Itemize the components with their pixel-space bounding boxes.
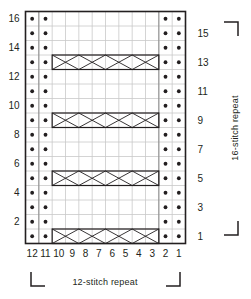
purl-dot bbox=[177, 75, 181, 79]
purl-dot bbox=[30, 205, 34, 209]
purl-dot bbox=[44, 46, 48, 50]
bottom-repeat-label: 12-stitch repeat bbox=[72, 277, 138, 287]
row-label-left: 16 bbox=[8, 13, 20, 24]
purl-dot bbox=[44, 60, 48, 64]
row-label-left: 10 bbox=[8, 100, 20, 111]
purl-dot bbox=[30, 191, 34, 195]
purl-dot bbox=[164, 60, 168, 64]
purl-dot bbox=[30, 46, 34, 50]
purl-dot bbox=[44, 234, 48, 238]
purl-dot bbox=[30, 176, 34, 180]
purl-dot bbox=[44, 31, 48, 35]
purl-dot bbox=[44, 162, 48, 166]
purl-dot bbox=[164, 89, 168, 93]
row-label-left: 6 bbox=[14, 158, 20, 169]
purl-dot bbox=[44, 133, 48, 137]
column-label: 1 bbox=[176, 248, 182, 259]
purl-dot bbox=[177, 147, 181, 151]
row-labels-left: 161412108642 bbox=[8, 13, 20, 227]
purl-dot bbox=[177, 104, 181, 108]
purl-dot bbox=[177, 133, 181, 137]
purl-dot bbox=[44, 205, 48, 209]
purl-dot bbox=[164, 118, 168, 122]
purl-dot bbox=[44, 118, 48, 122]
row-label-left: 12 bbox=[8, 71, 20, 82]
purl-dot bbox=[44, 104, 48, 108]
purl-dot bbox=[30, 118, 34, 122]
column-label: 7 bbox=[96, 248, 102, 259]
purl-dot bbox=[177, 205, 181, 209]
purl-dot bbox=[177, 176, 181, 180]
purl-dot bbox=[44, 147, 48, 151]
column-label: 9 bbox=[69, 248, 75, 259]
purl-dot bbox=[177, 234, 181, 238]
row-label-left: 4 bbox=[14, 187, 20, 198]
purl-dot bbox=[164, 176, 168, 180]
side-repeat-label: 16-stitch repeat bbox=[230, 95, 240, 161]
purl-dot bbox=[164, 104, 168, 108]
purl-dot bbox=[164, 31, 168, 35]
purl-dot bbox=[30, 31, 34, 35]
column-label: 10 bbox=[53, 248, 65, 259]
row-label-left: 2 bbox=[14, 216, 20, 227]
purl-dot bbox=[177, 220, 181, 224]
row-labels-right: 15131197531 bbox=[198, 28, 210, 242]
row-label-right: 11 bbox=[198, 86, 209, 97]
purl-dot bbox=[44, 75, 48, 79]
purl-dot bbox=[164, 234, 168, 238]
column-labels: 121110987654321 bbox=[27, 248, 182, 259]
purl-dot bbox=[164, 75, 168, 79]
purl-dot bbox=[177, 31, 181, 35]
purl-dot bbox=[164, 17, 168, 21]
purl-dot bbox=[30, 133, 34, 137]
column-label: 2 bbox=[163, 248, 169, 259]
purl-dot bbox=[30, 147, 34, 151]
column-label: 3 bbox=[149, 248, 155, 259]
purl-dot bbox=[30, 89, 34, 93]
row-label-right: 15 bbox=[198, 28, 210, 39]
purl-dot bbox=[30, 75, 34, 79]
column-label: 11 bbox=[40, 248, 51, 259]
column-label: 4 bbox=[136, 248, 142, 259]
purl-dot bbox=[177, 17, 181, 21]
row-label-right: 9 bbox=[198, 115, 204, 126]
column-label: 5 bbox=[123, 248, 129, 259]
row-label-right: 5 bbox=[198, 173, 204, 184]
purl-dot bbox=[30, 162, 34, 166]
purl-dot bbox=[177, 118, 181, 122]
purl-dot bbox=[164, 147, 168, 151]
purl-dot bbox=[44, 89, 48, 93]
purl-dot bbox=[177, 162, 181, 166]
column-label: 12 bbox=[27, 248, 39, 259]
row-label-right: 13 bbox=[198, 57, 210, 68]
purl-dot bbox=[30, 17, 34, 21]
purl-dot bbox=[164, 191, 168, 195]
column-label: 8 bbox=[83, 248, 89, 259]
row-label-right: 3 bbox=[198, 202, 204, 213]
purl-dot bbox=[44, 17, 48, 21]
purl-dot bbox=[164, 162, 168, 166]
purl-dot bbox=[177, 46, 181, 50]
knitting-chart: 161412108642 15131197531 121110987654321… bbox=[0, 0, 251, 299]
purl-dot bbox=[177, 60, 181, 64]
purl-dot bbox=[164, 220, 168, 224]
purl-dot bbox=[164, 46, 168, 50]
row-label-right: 1 bbox=[198, 231, 204, 242]
purl-dot bbox=[177, 89, 181, 93]
purl-dot bbox=[164, 133, 168, 137]
row-label-right: 7 bbox=[198, 144, 204, 155]
purl-dot bbox=[30, 220, 34, 224]
purl-dot bbox=[44, 220, 48, 224]
chart-canvas: 161412108642 15131197531 121110987654321… bbox=[0, 0, 251, 299]
purl-dot bbox=[44, 176, 48, 180]
row-label-left: 8 bbox=[14, 129, 20, 140]
purl-dot bbox=[44, 191, 48, 195]
purl-dot bbox=[30, 234, 34, 238]
purl-dot bbox=[164, 205, 168, 209]
purl-dot bbox=[30, 60, 34, 64]
row-label-left: 14 bbox=[8, 42, 20, 53]
purl-dot bbox=[30, 104, 34, 108]
column-label: 6 bbox=[109, 248, 115, 259]
purl-dot bbox=[177, 191, 181, 195]
